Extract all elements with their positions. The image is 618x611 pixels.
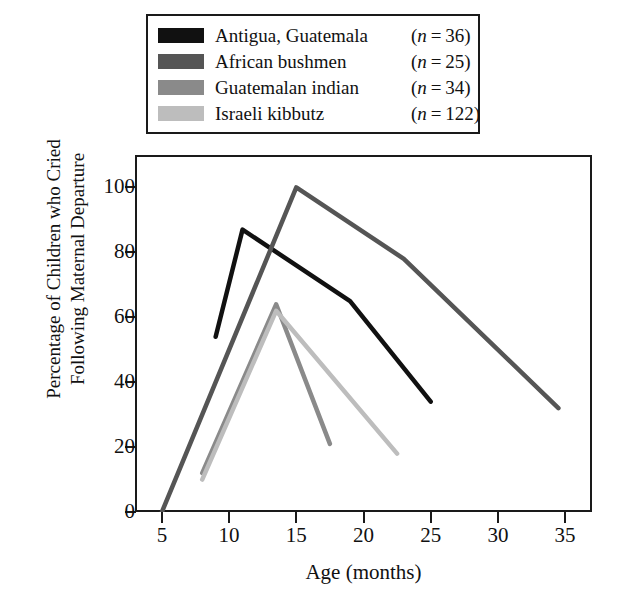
legend-n-african-bushmen: (n = 25) [411,52,471,71]
legend-swatch-israeli-kibbutz [158,106,204,121]
x-tick-label: 5 [142,525,182,546]
x-tick-label: 10 [209,525,249,546]
y-axis-title-line1: Percentage of Children who Cried [42,99,66,439]
x-tick-mark [295,512,297,523]
x-tick-label: 20 [344,525,384,546]
y-tick-label: 40 [89,371,135,392]
x-tick-mark [228,512,230,523]
x-tick-label: 25 [411,525,451,546]
y-tick-label: 80 [89,241,135,262]
legend: Antigua, Guatemala (n = 36) African bush… [146,14,480,134]
legend-item-israeli-kibbutz: Israeli kibbutz (n = 122) [158,100,468,126]
legend-n-antigua-guatemala: (n = 36) [411,26,471,45]
y-tick-label: 60 [89,306,135,327]
legend-swatch-african-bushmen [158,54,204,69]
x-tick-label: 15 [276,525,316,546]
y-tick-label: 0 [89,501,135,522]
legend-label-antigua-guatemala: Antigua, Guatemala [215,26,411,45]
y-axis-title-line2: Following Maternal Departure [66,99,90,439]
series-line [162,187,559,512]
x-tick-mark [161,512,163,523]
series-line [202,311,397,480]
legend-item-african-bushmen: African bushmen (n = 25) [158,48,468,74]
x-tick-mark [497,512,499,523]
legend-label-guatemalan-indian: Guatemalan indian [215,78,411,97]
chart-lines [135,155,592,512]
legend-swatch-antigua-guatemala [158,28,204,43]
legend-n-israeli-kibbutz: (n = 122) [411,104,480,123]
legend-label-israeli-kibbutz: Israeli kibbutz [215,104,411,123]
x-tick-label: 30 [478,525,518,546]
legend-item-guatemalan-indian: Guatemalan indian (n = 34) [158,74,468,100]
x-tick-mark [363,512,365,523]
x-tick-label: 35 [545,525,585,546]
x-tick-mark [564,512,566,523]
y-axis-title: Percentage of Children who Cried Followi… [42,99,90,439]
x-axis-title: Age (months) [135,562,592,583]
y-tick-label: 100 [89,176,135,197]
y-tick-label: 20 [89,436,135,457]
legend-label-african-bushmen: African bushmen [215,52,411,71]
legend-item-antigua-guatemala: Antigua, Guatemala (n = 36) [158,22,468,48]
legend-n-guatemalan-indian: (n = 34) [411,78,471,97]
x-tick-mark [430,512,432,523]
legend-swatch-guatemalan-indian [158,80,204,95]
